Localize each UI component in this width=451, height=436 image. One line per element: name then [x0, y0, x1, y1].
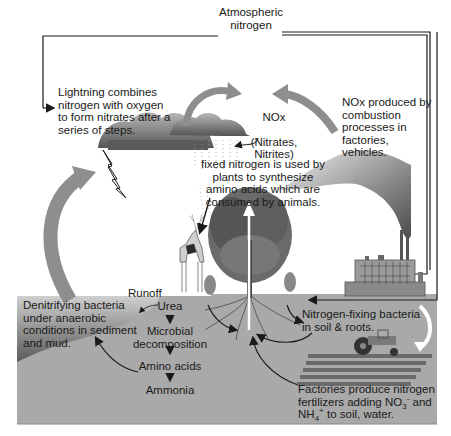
- label-microbial-decomposition: Microbial decomposition: [130, 325, 210, 350]
- label-nox: NOx (Nitrates, Nitrites): [246, 98, 302, 161]
- label-ammonia: Ammonia: [135, 384, 205, 397]
- label-runoff: Runoff: [128, 287, 162, 300]
- label-factories-line2: fertilizers adding NO: [298, 396, 402, 408]
- label-lightning: Lightning combines nitrogen with oxygen …: [58, 86, 171, 136]
- label-urea: Urea: [150, 300, 190, 313]
- label-factories-line3-end: to soil, water.: [324, 408, 394, 420]
- label-nox-title: NOx: [263, 111, 286, 123]
- arrow-icon: [50, 176, 82, 300]
- no3-subscript: 3: [402, 402, 406, 411]
- factory-icon: [345, 226, 425, 296]
- label-atmospheric-nitrogen: Atmospheric nitrogen: [216, 6, 286, 31]
- label-amino-acids: Amino acids: [135, 360, 205, 373]
- label-factories-line3: NH: [298, 408, 315, 420]
- label-factories-line2-end: and: [409, 396, 431, 408]
- label-nox-combustion: NOx produced by combustion processes in …: [342, 96, 432, 159]
- label-factories: Factories produce nitrogen fertilizers a…: [298, 383, 435, 421]
- deer-icon: [180, 214, 204, 292]
- label-nox-sub: (Nitrates, Nitrites): [251, 136, 298, 161]
- lightning-icon: [103, 150, 126, 198]
- label-nitrogen-fixing: Nitrogen-fixing bacteria in soil & roots…: [302, 308, 420, 333]
- label-fixed-nitrogen: fixed nitrogen is used by plants to synt…: [193, 158, 333, 208]
- nh4-subscript: 4: [315, 414, 319, 423]
- label-factories-line1: Factories produce nitrogen: [298, 383, 435, 395]
- nitrogen-cycle-diagram: [0, 0, 451, 436]
- label-denitrifying: Denitrifying bacteria under anaerobic co…: [23, 299, 137, 349]
